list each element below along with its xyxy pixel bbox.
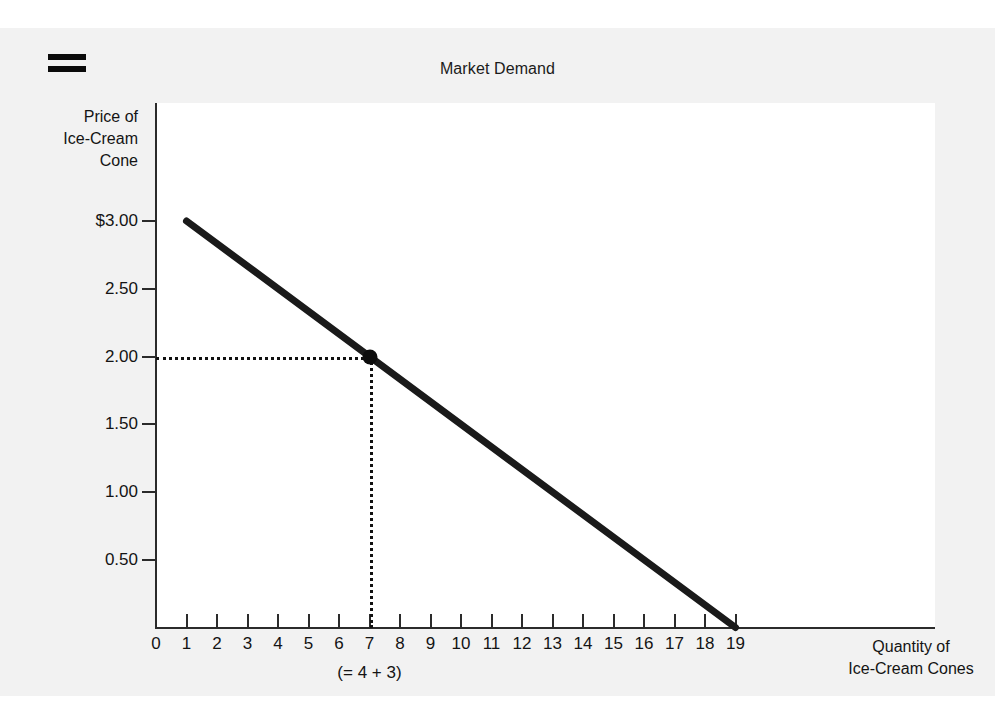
y-tick-mark [142,356,156,358]
x-tick-mark [430,614,432,628]
chart-title: Market Demand [0,60,995,78]
y-tick-label: 0.50 [38,550,138,570]
x-tick-mark [704,614,706,628]
x-tick-label: 19 [716,634,756,654]
y-axis-line [155,103,157,629]
x-tick-mark [613,614,615,628]
x-tick-mark [308,614,310,628]
y-tick-label: 1.00 [38,482,138,502]
x-tick-mark [582,614,584,628]
equilibrium-point-marker[interactable] [362,349,377,364]
vertical-guide-line [370,357,373,628]
chart-page: Market Demand Price of Ice-Cream Cone Qu… [0,0,995,725]
x-axis-title-line-1: Quantity of [828,636,994,658]
y-tick-label: 2.50 [38,279,138,299]
x-axis-title-line-2: Ice-Cream Cones [828,658,994,680]
x-tick-mark [643,614,645,628]
plot-area [156,103,935,628]
y-tick-mark [142,288,156,290]
x-tick-mark [674,614,676,628]
x-tick-mark [247,614,249,628]
x-tick-mark [552,614,554,628]
x-tick-mark [491,614,493,628]
horizontal-guide-line [156,357,370,360]
x-tick-mark [460,614,462,628]
y-axis-ticks: 0.501.001.502.002.50$3.00 [30,0,138,725]
x-axis-line [155,627,935,629]
y-tick-mark [142,423,156,425]
x-tick-mark [521,614,523,628]
x-tick-mark [277,614,279,628]
y-tick-mark [142,559,156,561]
x-tick-mark [216,614,218,628]
y-tick-label: 2.00 [38,347,138,367]
y-tick-mark [142,491,156,493]
x-tick-mark [735,614,737,628]
x-axis-title: Quantity of Ice-Cream Cones [828,636,994,680]
x-tick-mark [338,614,340,628]
y-tick-label: $3.00 [38,211,138,231]
y-tick-label: 1.50 [38,414,138,434]
axis-annotation: (= 4 + 3) [290,663,450,683]
x-tick-mark [399,614,401,628]
y-tick-mark [142,220,156,222]
x-tick-mark [186,614,188,628]
